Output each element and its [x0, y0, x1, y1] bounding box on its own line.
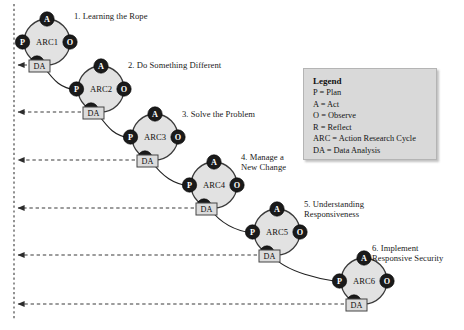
- legend-entry-da: DA = Data Analysis: [313, 145, 436, 157]
- stage-letter-observe-arc3: O: [175, 133, 181, 142]
- legend-title: Legend: [313, 76, 436, 86]
- da-box-arc3: DA: [137, 155, 158, 167]
- da-box-label-arc4: DA: [201, 205, 213, 214]
- cycle-title-arc1: 1. Learning the Rope: [74, 11, 148, 21]
- legend-entry-act: A = Act: [313, 99, 436, 111]
- da-box-arc1: DA: [29, 60, 50, 72]
- stage-letter-act-arc1: A: [44, 15, 50, 24]
- da-box-label-arc2: DA: [88, 109, 100, 118]
- stage-letter-observe-arc4: O: [234, 181, 240, 190]
- legend-entry-plan: P = Plan: [313, 87, 436, 99]
- cycle-label-arc1: ARC1: [36, 37, 58, 47]
- stage-letter-plan-arc2: P: [74, 85, 79, 94]
- cycle-title-arc5: 5. Understanding Responsiveness: [304, 199, 364, 220]
- connector-arc5-to-arc6: [273, 256, 340, 282]
- stage-letter-act-arc4: A: [211, 158, 217, 167]
- legend-entry-arc: ARC = Action Research Cycle: [313, 133, 436, 145]
- stage-letter-act-arc5: A: [274, 205, 280, 214]
- stage-letter-observe-arc6: O: [384, 277, 390, 286]
- stage-letter-observe-arc1: O: [67, 38, 73, 47]
- stage-letter-act-arc3: A: [152, 110, 158, 119]
- cycle-title-arc2: 2. Do Something Different: [128, 60, 221, 70]
- diagram-canvas: ARC1AORPARC2AORPARC3AORPARC4AORPARC5AORP…: [0, 0, 464, 330]
- cycle-label-arc6: ARC6: [353, 276, 376, 286]
- cycle-title-arc4: 4. Manage a New Change: [241, 152, 286, 173]
- cycle-title-arc3: 3. Solve the Problem: [182, 109, 255, 119]
- diagram-root: ARC1AORPARC2AORPARC3AORPARC4AORPARC5AORP…: [0, 0, 464, 330]
- stage-letter-plan-arc4: P: [187, 181, 192, 190]
- stage-letter-act-arc6: A: [361, 254, 367, 263]
- stage-letter-act-arc2: A: [98, 62, 104, 71]
- stage-letter-plan-arc1: P: [20, 38, 25, 47]
- legend-entry-observe: O = Observe: [313, 110, 436, 122]
- stage-letter-plan-arc5: P: [250, 228, 255, 237]
- cycle-title-arc6: 6. Implement Responsive Security: [372, 243, 443, 264]
- stage-letter-observe-arc5: O: [297, 228, 303, 237]
- da-box-label-arc5: DA: [264, 252, 276, 261]
- legend-content: Legend P = Plan A = Act O = Observe R = …: [304, 69, 436, 157]
- da-box-arc5: DA: [259, 250, 280, 262]
- da-box-label-arc3: DA: [142, 157, 154, 166]
- stage-letter-plan-arc3: P: [128, 133, 133, 142]
- da-box-label-arc1: DA: [34, 62, 46, 71]
- cycle-label-arc3: ARC3: [144, 132, 166, 142]
- cycle-label-arc2: ARC2: [90, 84, 112, 94]
- da-box-arc4: DA: [196, 203, 217, 215]
- cycle-label-arc4: ARC4: [203, 180, 226, 190]
- cycle-label-arc5: ARC5: [266, 227, 288, 237]
- stage-letter-plan-arc6: P: [337, 277, 342, 286]
- da-box-arc2: DA: [83, 107, 104, 119]
- da-box-arc6: DA: [346, 299, 367, 311]
- da-box-label-arc6: DA: [351, 301, 363, 310]
- legend-entry-reflect: R = Reflect: [313, 122, 436, 134]
- stage-letter-observe-arc2: O: [121, 85, 127, 94]
- legend-box: Legend P = Plan A = Act O = Observe R = …: [303, 68, 437, 160]
